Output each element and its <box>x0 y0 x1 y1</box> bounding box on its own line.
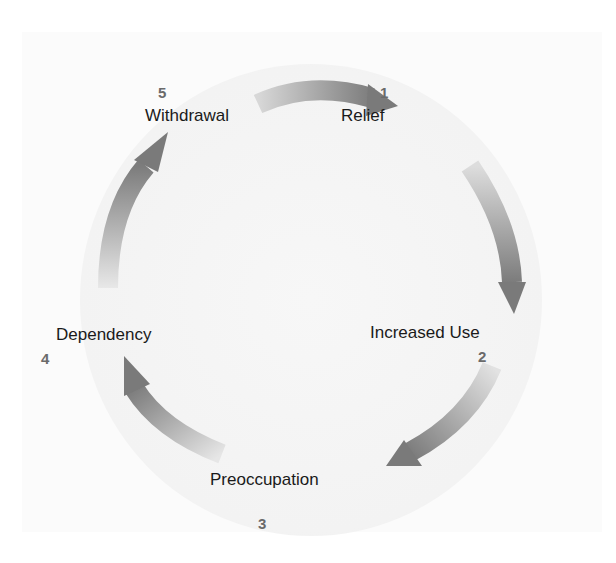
stage-label-dependency: Dependency <box>56 325 151 345</box>
stage-label-relief: Relief <box>341 106 384 126</box>
arrow-relief-to-increased-use <box>470 166 526 314</box>
stage-label-increased-use: Increased Use <box>370 323 480 343</box>
stage-number-5: 5 <box>158 84 166 101</box>
arrow-dependency-to-withdrawal <box>108 132 168 288</box>
arrow-increased-use-to-preoccupation <box>386 366 492 466</box>
stage-label-withdrawal: Withdrawal <box>145 106 229 126</box>
stage-label-preoccupation: Preoccupation <box>210 470 319 490</box>
arrow-preoccupation-to-dependency <box>124 356 222 454</box>
stage-number-4: 4 <box>41 350 49 367</box>
stage-number-2: 2 <box>478 348 486 365</box>
stage-number-3: 3 <box>258 515 266 532</box>
stage-number-1: 1 <box>380 84 388 101</box>
